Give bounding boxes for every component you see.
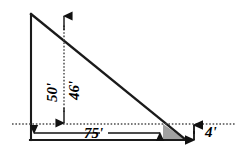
dimension-label-right-height: 4'	[205, 125, 217, 140]
triangle-hypotenuse	[31, 14, 186, 140]
dimension-label-left-height: 50'	[45, 83, 60, 102]
geometry-figure: 50' 46' 75' 4'	[0, 0, 247, 157]
dimension-label-inner-height: 46'	[67, 81, 82, 100]
dimension-label-base-length: 75'	[84, 126, 103, 141]
